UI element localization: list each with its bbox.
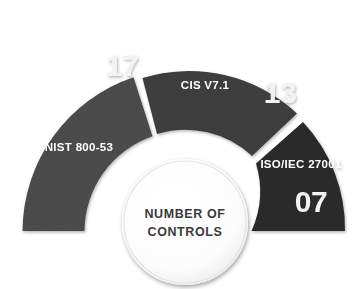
- center-hub: NUMBER OF CONTROLS: [122, 159, 248, 285]
- slice-cis-v7-1-value: 13: [264, 76, 296, 109]
- center-label-line-1: NUMBER OF: [144, 207, 225, 221]
- slice-nist-800-53-value: 17: [106, 49, 138, 82]
- slice-iso-iec-27001-value: 07: [295, 185, 327, 218]
- slice-cis-v7-1-label: CIS V7.1: [181, 79, 230, 91]
- semi-donut-chart: NIST 800-53 17 CIS V7.1 13 ISO/IEC 27001…: [0, 0, 359, 289]
- slice-iso-iec-27001-label: ISO/IEC 27001: [260, 158, 342, 170]
- center-label-line-2: CONTROLS: [148, 225, 223, 239]
- center-circle: [122, 159, 248, 285]
- slice-nist-800-53-label: NIST 800-53: [45, 141, 114, 153]
- chart-canvas: NIST 800-53 17 CIS V7.1 13 ISO/IEC 27001…: [0, 0, 359, 289]
